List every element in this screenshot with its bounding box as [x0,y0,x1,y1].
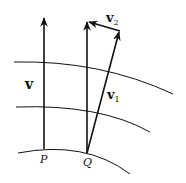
label-v2: v2 [106,11,119,27]
label-v1-main: v [107,87,115,102]
label-v1: v1 [107,88,120,104]
label-P: P [40,154,47,165]
label-v1-sub: 1 [115,95,120,104]
streamline-top [14,62,173,94]
velocity-diagram: v v1 v2 P Q [0,0,186,183]
label-v2-sub: 2 [114,18,119,27]
streamline-middle [16,107,150,132]
label-Q: Q [83,157,92,168]
streamline-bottom [18,149,130,174]
label-v2-main: v [106,10,114,25]
label-v: v [25,77,33,91]
